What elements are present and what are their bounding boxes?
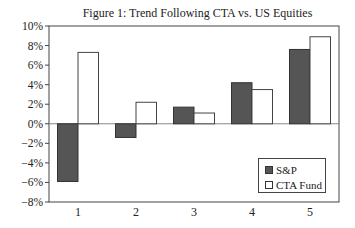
bar-sp bbox=[58, 124, 79, 182]
y-tick-label: −4% bbox=[21, 157, 43, 169]
y-tick-label: −6% bbox=[21, 176, 43, 188]
y-tick-label: −2% bbox=[21, 137, 43, 149]
x-tick-label: 1 bbox=[75, 205, 81, 219]
legend-swatch-sp bbox=[265, 166, 273, 174]
y-tick-label: 2% bbox=[28, 98, 44, 110]
legend-label-cta: CTA Fund bbox=[276, 179, 322, 191]
x-tick-label: 4 bbox=[249, 205, 255, 219]
x-tick-label: 3 bbox=[191, 205, 197, 219]
legend: S&P CTA Fund bbox=[258, 158, 326, 193]
bar-sp bbox=[116, 124, 137, 138]
y-tick-label: 0% bbox=[28, 118, 44, 130]
y-tick-label: 6% bbox=[28, 59, 44, 71]
y-tick-label: 10% bbox=[22, 20, 44, 32]
legend-label-sp: S&P bbox=[276, 164, 297, 176]
bar-cta bbox=[78, 52, 99, 123]
y-tick-label: 4% bbox=[28, 79, 44, 91]
y-tick-label: 8% bbox=[28, 40, 44, 52]
x-tick-label: 2 bbox=[133, 205, 139, 219]
legend-item-cta: CTA Fund bbox=[265, 177, 325, 192]
bar-sp bbox=[232, 83, 253, 124]
x-tick-label: 5 bbox=[307, 205, 313, 219]
legend-swatch-cta bbox=[265, 181, 273, 189]
bar-cta bbox=[310, 37, 331, 124]
bar-cta bbox=[136, 102, 157, 124]
legend-item-sp: S&P bbox=[265, 162, 325, 177]
bar-sp bbox=[290, 49, 311, 123]
bar-cta bbox=[252, 90, 273, 124]
bar-chart: −8%−6%−4%−2%0%2%4%6%8%10%12345 bbox=[0, 0, 355, 228]
bar-cta bbox=[194, 113, 215, 124]
y-tick-label: −8% bbox=[21, 196, 43, 208]
bar-sp bbox=[174, 107, 195, 124]
